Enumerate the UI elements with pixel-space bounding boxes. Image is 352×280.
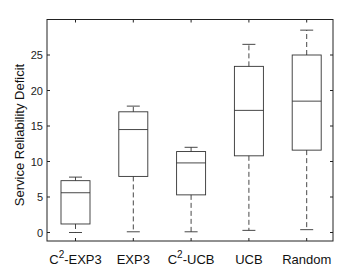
box-c2-ucb (177, 147, 206, 231)
y-tick-label: 0 (37, 227, 43, 239)
iqr-box (61, 181, 90, 224)
x-category-label: EXP3 (117, 252, 150, 267)
y-tick-label: 10 (31, 156, 43, 168)
y-axis-label: Service Reliability Deficit (12, 63, 27, 206)
iqr-box (177, 152, 206, 195)
y-tick-label: 5 (37, 191, 43, 203)
box-plot-chart: 0510152025 C2-EXP3EXP3C2-UCBUCBRandom Se… (0, 0, 352, 280)
x-category-label: Random (282, 252, 331, 267)
iqr-box (292, 55, 321, 150)
box-exp3 (119, 106, 148, 232)
box-random (292, 30, 321, 230)
iqr-box (234, 66, 263, 155)
x-axis: C2-EXP3EXP3C2-UCBUCBRandom (49, 20, 331, 268)
y-tick-label: 15 (31, 120, 43, 132)
x-category-label: UCB (235, 252, 262, 267)
box-c2-exp3 (61, 177, 90, 232)
x-category-label: C2-UCB (168, 249, 215, 267)
y-tick-label: 20 (31, 85, 43, 97)
iqr-box (119, 112, 148, 177)
y-tick-label: 25 (31, 49, 43, 61)
y-axis: 0510152025 (31, 49, 333, 239)
x-category-label: C2-EXP3 (49, 249, 102, 267)
box-ucb (234, 44, 263, 230)
plot-area (47, 20, 333, 242)
